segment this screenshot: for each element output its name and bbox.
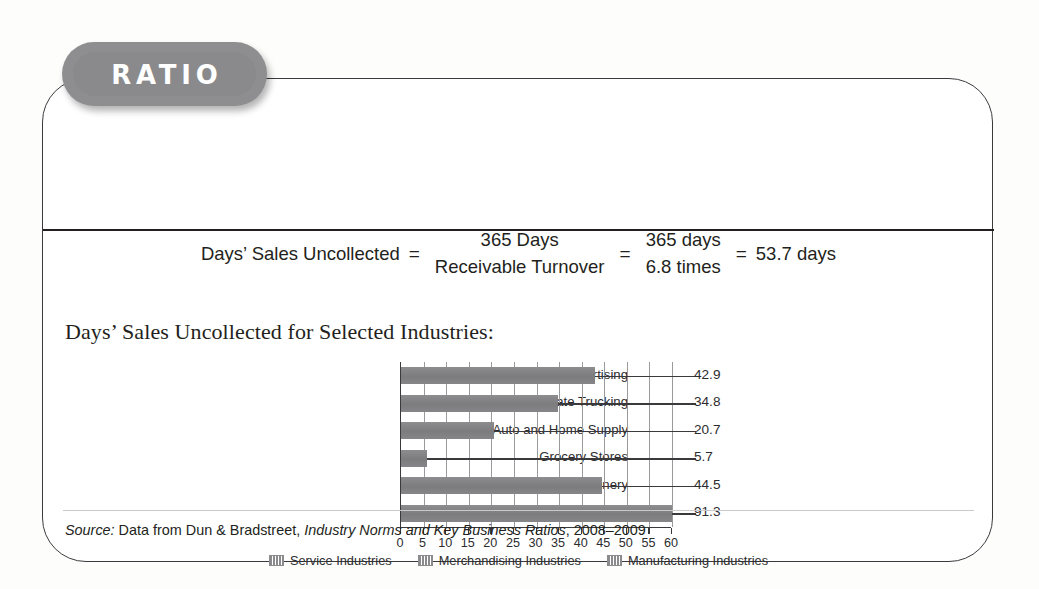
x-tick [648, 528, 649, 534]
source-publication-title: Industry Norms and Key Business Ratios [304, 522, 566, 538]
bar [401, 450, 427, 467]
gridline [469, 362, 470, 527]
gridline [537, 362, 538, 527]
bar [401, 505, 672, 522]
bar-chart: AdvertisingInterstate TruckingAuto and H… [43, 357, 994, 572]
legend-item: Merchandising Industries [418, 553, 581, 568]
legend-label: Service Industries [290, 553, 392, 568]
source-divider [63, 510, 974, 511]
x-tick-label: 0 [396, 536, 403, 550]
ratio-badge-inner: RATIO [73, 52, 256, 96]
x-tick-label: 55 [641, 536, 655, 550]
legend-item: Service Industries [269, 553, 392, 568]
formula-equals-1: = [409, 243, 420, 265]
value-label: 34.8 [694, 394, 720, 409]
formula-row: Days’ Sales Uncollected = 365 Days Recei… [43, 229, 994, 278]
x-tick-label: 10 [438, 536, 452, 550]
x-tick-label: 15 [461, 536, 475, 550]
plot-frame [400, 362, 671, 527]
gridline [559, 362, 560, 527]
source-note: Source: Data from Dun & Bradstreet, Indu… [65, 522, 646, 538]
source-text-1: Data from Dun & Bradstreet, [115, 522, 305, 538]
formula-fraction-2: 365 days 6.8 times [640, 229, 727, 278]
formula-result: 53.7 days [756, 243, 836, 265]
value-label: 5.7 [694, 449, 713, 464]
bar [401, 395, 558, 412]
ratio-badge: RATIO [62, 42, 267, 106]
x-tick-label: 45 [596, 536, 610, 550]
x-tick-label: 50 [619, 536, 633, 550]
x-tick-label: 40 [574, 536, 588, 550]
formula-lhs: Days’ Sales Uncollected [201, 243, 400, 265]
leader-line [602, 486, 696, 487]
leader-line [427, 458, 696, 459]
gridline [446, 362, 447, 527]
formula-equals-2: = [620, 243, 631, 265]
legend-swatch-icon [607, 555, 622, 566]
bar [401, 477, 602, 494]
source-prefix: Source: [65, 522, 115, 538]
value-label: 20.7 [694, 422, 720, 437]
value-label: 91.3 [694, 504, 720, 519]
leader-line [494, 431, 696, 432]
gridline [604, 362, 605, 527]
formula-fraction-2-bar [43, 229, 994, 231]
formula-fraction-2-denominator: 6.8 times [640, 253, 727, 278]
gridline [582, 362, 583, 527]
x-tick [671, 528, 672, 534]
x-tick-label: 5 [419, 536, 426, 550]
plot-area [400, 362, 671, 527]
legend-label: Merchandising Industries [439, 553, 581, 568]
x-tick-label: 60 [664, 536, 678, 550]
chart-legend: Service IndustriesMerchandising Industri… [43, 553, 994, 568]
x-tick-label: 35 [551, 536, 565, 550]
gridline [514, 362, 515, 527]
ratio-card: Days’ Sales Uncollected = 365 Days Recei… [42, 78, 993, 562]
ratio-badge-label: RATIO [106, 61, 222, 88]
value-label: 42.9 [694, 367, 720, 382]
x-tick-label: 20 [483, 536, 497, 550]
gridline [424, 362, 425, 527]
x-tick-label: 25 [506, 536, 520, 550]
gridline [627, 362, 628, 527]
bar [401, 422, 494, 439]
gridline [491, 362, 492, 527]
bar [401, 367, 595, 384]
legend-label: Manufacturing Industries [628, 553, 768, 568]
legend-item: Manufacturing Industries [607, 553, 768, 568]
legend-swatch-icon [269, 555, 284, 566]
leader-line [595, 376, 696, 377]
formula-fraction-1-denominator: Receivable Turnover [429, 253, 611, 278]
value-label: 44.5 [694, 477, 720, 492]
gridline [672, 362, 673, 527]
legend-swatch-icon [418, 555, 433, 566]
source-text-2: , 2008–2009 [566, 522, 646, 538]
gridline [649, 362, 650, 527]
chart-title: Days’ Sales Uncollected for Selected Ind… [65, 319, 494, 345]
leader-line [558, 403, 696, 404]
x-tick-label: 30 [528, 536, 542, 550]
formula-fraction-1: 365 Days Receivable Turnover [429, 229, 611, 278]
formula-equals-3: = [736, 243, 747, 265]
formula-fraction-2-numerator: 365 days [640, 229, 727, 253]
leader-line [672, 513, 696, 514]
formula-fraction-1-numerator: 365 Days [475, 229, 565, 253]
